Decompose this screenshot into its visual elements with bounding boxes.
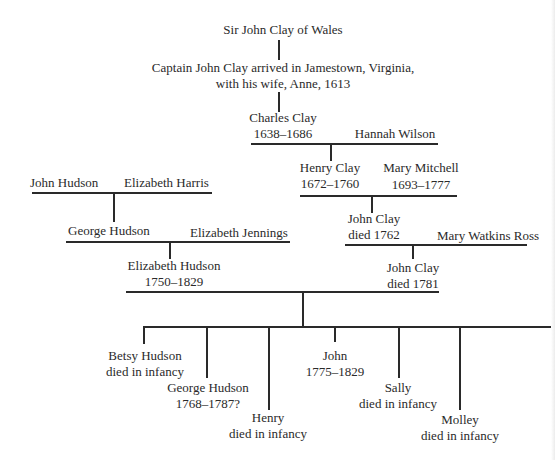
john-clay-1762-name: John Clay — [345, 211, 403, 227]
page-edge-shadow — [551, 0, 555, 460]
elizabeth-jennings: Elizabeth Jennings — [190, 225, 292, 241]
mary-watkins-ross: Mary Watkins Ross — [424, 228, 552, 244]
child-betsy-hudson: Betsy Hudson — [100, 348, 190, 364]
child-molley: Molley — [414, 412, 506, 428]
connector-line — [330, 143, 332, 161]
child-henry-note: died in infancy — [222, 426, 314, 442]
charles-clay-dates: 1638–1686 — [248, 126, 318, 142]
connector-line — [278, 40, 280, 60]
captain-john-clay-line2: with his wife, Anne, 1613 — [138, 76, 428, 92]
connector-line — [302, 291, 304, 326]
mary-mitchell-name: Mary Mitchell — [380, 160, 462, 176]
connector-line — [169, 241, 171, 259]
child-drop-line — [459, 326, 461, 410]
child-sally-note: died in infancy — [352, 396, 444, 412]
child-drop-line — [268, 326, 270, 410]
connector-line — [113, 192, 115, 222]
child-henry: Henry — [222, 410, 314, 426]
child-sally: Sally — [352, 380, 444, 396]
mary-mitchell-dates: 1693–1777 — [380, 177, 462, 193]
sir-john-clay: Sir John Clay of Wales — [218, 22, 348, 38]
child-john-note: 1775–1829 — [300, 364, 370, 380]
george-hudson-parent: George Hudson — [68, 223, 158, 239]
connector-line — [278, 92, 280, 112]
child-drop-line — [398, 326, 400, 378]
connector-line — [412, 244, 414, 259]
child-drop-line — [143, 326, 145, 344]
child-molley-note: died in infancy — [414, 428, 506, 444]
hannah-wilson: Hannah Wilson — [350, 126, 440, 142]
john-clay-1781-name: John Clay — [382, 260, 444, 276]
marriage-line — [32, 192, 212, 194]
children-line — [143, 326, 555, 328]
child-drop-line — [334, 326, 336, 342]
charles-clay-name: Charles Clay — [248, 110, 318, 126]
captain-john-clay-line1: Captain John Clay arrived in Jamestown, … — [138, 60, 428, 76]
john-clay-1781-dates: died 1781 — [382, 276, 444, 292]
elizabeth-hudson-name: Elizabeth Hudson — [125, 258, 223, 274]
henry-clay-name: Henry Clay — [298, 160, 362, 176]
elizabeth-harris: Elizabeth Harris — [124, 175, 214, 191]
marriage-line — [251, 143, 438, 145]
marriage-line — [126, 291, 439, 293]
john-clay-1762-dates: died 1762 — [345, 227, 403, 243]
john-hudson: John Hudson — [30, 175, 105, 191]
child-drop-line — [206, 326, 208, 378]
elizabeth-hudson-dates: 1750–1829 — [125, 274, 223, 290]
child-betsy-hudson-note: died in infancy — [100, 364, 190, 380]
marriage-line — [345, 244, 527, 246]
marriage-line — [300, 195, 457, 197]
child-george-hudson: George Hudson — [158, 380, 258, 396]
child-john: John — [300, 348, 370, 364]
henry-clay-dates: 1672–1760 — [298, 176, 362, 192]
marriage-line — [66, 241, 290, 243]
